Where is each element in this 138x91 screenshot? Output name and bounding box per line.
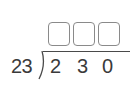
quotient-box-2[interactable]	[73, 22, 95, 46]
division-bracket-icon	[36, 51, 46, 81]
dividend-digit-1: 2	[50, 56, 61, 76]
dividend-digit-3: 0	[102, 56, 113, 76]
divisor: 23	[11, 56, 32, 76]
quotient-box-1[interactable]	[48, 22, 70, 46]
quotient-box-3[interactable]	[98, 22, 120, 46]
dividend-digit-2: 3	[77, 56, 88, 76]
division-bar	[43, 51, 130, 52]
